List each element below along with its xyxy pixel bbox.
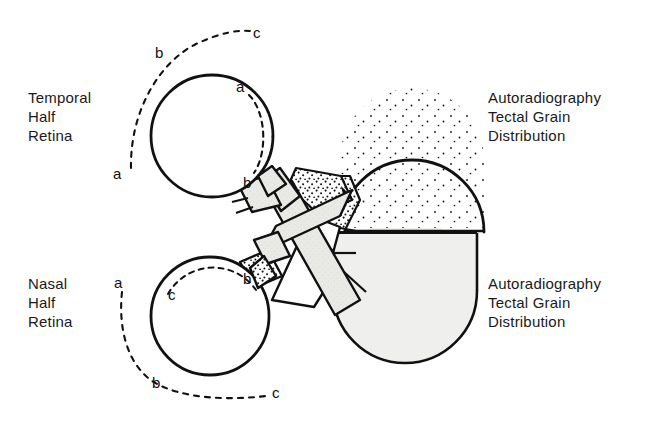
upper-right-tectum <box>330 80 500 240</box>
marker-upper-inner-b: b <box>243 174 251 191</box>
marker-upper-outer-a: a <box>113 165 122 182</box>
marker-upper-outer-b: b <box>155 44 163 61</box>
label-nasal-half-retina: Nasal Half Retina <box>28 274 73 331</box>
label-auto-bottom-line2: Tectal Grain <box>488 293 601 312</box>
label-autoradiography-top: Autoradiography Tectal Grain Distributio… <box>488 88 601 145</box>
label-auto-top-line1: Autoradiography <box>488 88 601 107</box>
marker-lower-outer-b: b <box>152 374 160 391</box>
label-temporal-line3: Retina <box>28 126 91 145</box>
upper-left-eye <box>140 66 290 210</box>
marker-upper-outer-c: c <box>253 24 261 41</box>
label-autoradiography-bottom: Autoradiography Tectal Grain Distributio… <box>488 274 601 331</box>
marker-lower-inner-c: c <box>168 286 176 303</box>
label-auto-bottom-line1: Autoradiography <box>488 274 601 293</box>
marker-lower-outer-c: c <box>272 384 280 401</box>
retinotectal-diagram: a b c a b a b c c b Temporal Half Retina… <box>0 0 658 424</box>
marker-lower-outer-a: a <box>114 274 123 291</box>
label-auto-bottom-line3: Distribution <box>488 312 601 331</box>
marker-lower-inner-b: b <box>243 270 251 287</box>
label-temporal-half-retina: Temporal Half Retina <box>28 88 91 145</box>
label-auto-top-line2: Tectal Grain <box>488 107 601 126</box>
label-temporal-line1: Temporal <box>28 88 91 107</box>
diagram-canvas: a b c a b a b c c b <box>0 0 658 424</box>
label-temporal-line2: Half <box>28 107 91 126</box>
label-auto-top-line3: Distribution <box>488 126 601 145</box>
marker-upper-inner-a: a <box>236 78 245 95</box>
label-nasal-line3: Retina <box>28 312 73 331</box>
label-nasal-line2: Half <box>28 293 73 312</box>
label-nasal-line1: Nasal <box>28 274 73 293</box>
